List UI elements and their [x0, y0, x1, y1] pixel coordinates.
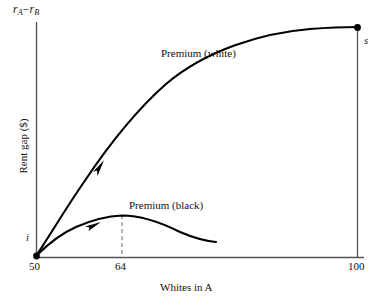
x-tick-label-50: 50 [29, 260, 40, 272]
endpoint-point-label: s [364, 35, 368, 46]
chart-figure: rA−rB Rent gap ($) Whites in A 50 64 100… [0, 0, 381, 307]
origin-point-label: i [26, 232, 29, 243]
y-axis-title: Rent gap ($) [17, 96, 29, 196]
x-tick-label-100: 100 [348, 260, 365, 272]
series-label-premium-black: Premium (black) [129, 199, 203, 211]
x-axis-title: Whites in A [160, 281, 213, 293]
y-axis-top-label: rA−rB [13, 3, 39, 17]
curve-premium-white [36, 27, 357, 256]
series-label-premium-white: Premium (white) [161, 47, 236, 59]
y-axis-top-label-sub-b: B [34, 8, 39, 17]
endpoint-point-marker [354, 24, 361, 31]
x-tick-label-64: 64 [115, 260, 126, 272]
curve-premium-black [36, 216, 216, 257]
origin-point-marker [33, 253, 40, 260]
